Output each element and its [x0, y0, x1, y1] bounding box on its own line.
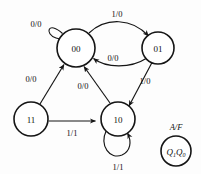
transition-11-to-10-label: 1/1: [67, 128, 78, 138]
state-node-01[interactable]: 01: [142, 32, 174, 64]
transition-00-to-01-label: 1/0: [112, 9, 123, 19]
legend-q0-subscript: 0: [183, 152, 186, 158]
state-11-label: 11: [27, 115, 36, 125]
transition-11-to-00-label: 0/0: [26, 74, 37, 84]
transition-10-to-10-label: 1/1: [113, 162, 124, 172]
state-node-11[interactable]: 11: [14, 102, 48, 136]
state-10-label: 10: [114, 115, 124, 125]
legend-io-label: A/F: [169, 122, 184, 132]
state-node-00[interactable]: 00: [57, 29, 95, 67]
state-node-10[interactable]: 10: [101, 102, 135, 136]
transition-01-to-00-label: 0/0: [108, 53, 119, 63]
state-01-label: 01: [154, 44, 163, 54]
transition-01-to-10-label: 1/0: [140, 76, 151, 86]
state-00-label: 00: [72, 44, 82, 54]
state-transition-diagram: 0/0 1/0 0/0 1/0 0/0 0/0 1/1 1/1 00: [0, 0, 201, 174]
transition-00-to-00-label: 0/0: [31, 19, 42, 29]
transition-10-to-00-label: 0/0: [78, 81, 89, 91]
